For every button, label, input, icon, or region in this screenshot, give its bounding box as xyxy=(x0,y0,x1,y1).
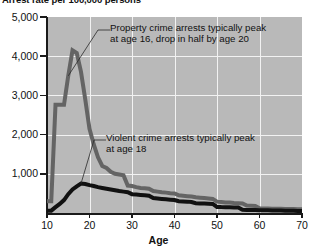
y-axis-tick-label: 5,000 xyxy=(12,12,38,22)
x-axis-tick-label: 10 xyxy=(33,219,61,231)
annotation-violent-line-2: at age 18 xyxy=(106,143,255,154)
y-axis-tick xyxy=(40,16,47,18)
annotation-property-line-1: Property crime arrests typically peak xyxy=(110,22,266,33)
y-axis-tick xyxy=(40,173,47,175)
gridline-vertical xyxy=(217,17,218,213)
x-axis-tick xyxy=(259,213,261,218)
x-axis-tick-label: 40 xyxy=(161,219,189,231)
plot-area xyxy=(47,17,302,213)
y-axis-line xyxy=(46,17,48,214)
annotation-property-line-2: at age 16, drop in half by age 20 xyxy=(110,33,266,44)
x-axis-tick-label: 70 xyxy=(288,219,316,231)
x-axis-tick xyxy=(301,213,303,218)
x-axis-title: Age xyxy=(0,234,317,246)
x-axis-tick-label: 30 xyxy=(118,219,146,231)
y-axis-tick-label: 3,000 xyxy=(12,90,38,100)
annotation-violent-crime: Violent crime arrests typically peak at … xyxy=(106,132,255,154)
gridline-vertical xyxy=(90,17,91,213)
annotation-property-crime: Property crime arrests typically peak at… xyxy=(110,22,266,44)
x-axis-tick-label: 60 xyxy=(246,219,274,231)
gridline-horizontal xyxy=(47,56,302,57)
y-axis-tick xyxy=(40,55,47,57)
gridline-vertical xyxy=(260,17,261,213)
y-axis-tick-labels: 1,0002,0003,0004,0005,000 xyxy=(0,0,38,252)
y-axis-tick xyxy=(40,95,47,97)
x-axis-tick xyxy=(89,213,91,218)
x-axis-tick xyxy=(131,213,133,218)
gridline-vertical xyxy=(132,17,133,213)
y-axis-tick-label: 4,000 xyxy=(12,51,38,61)
x-axis-tick-label: 20 xyxy=(76,219,104,231)
annotation-violent-line-1: Violent crime arrests typically peak xyxy=(106,132,255,143)
x-axis-tick xyxy=(174,213,176,218)
chart-figure: Arrest rate per 100,000 persons 1,0002,0… xyxy=(0,0,317,252)
y-axis-tick xyxy=(40,134,47,136)
gridline-vertical xyxy=(175,17,176,213)
y-axis-tick-label: 1,000 xyxy=(12,168,38,178)
x-axis-tick xyxy=(216,213,218,218)
x-axis-tick xyxy=(46,213,48,218)
y-axis-tick-label: 2,000 xyxy=(12,129,38,139)
gridline-horizontal xyxy=(47,174,302,175)
gridline-horizontal xyxy=(47,95,302,96)
x-axis-tick-label: 50 xyxy=(203,219,231,231)
